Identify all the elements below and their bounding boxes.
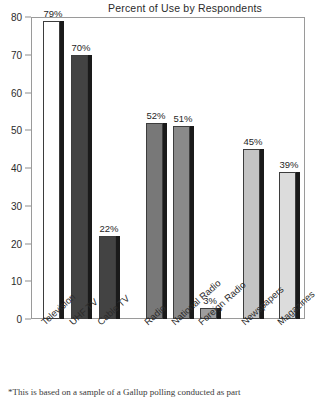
y-axis: 01020304050607080 (0, 17, 31, 319)
bar-shadow (260, 149, 264, 319)
bar-national-radio: 51% (173, 126, 193, 319)
bar-value-label: 22% (99, 223, 118, 234)
bar-shadow (190, 126, 194, 319)
bar-rect (71, 55, 88, 319)
chart-footnote: *This is based on a sample of a Gallup p… (8, 387, 313, 397)
chart-title: Percent of Use by Respondents (60, 2, 310, 14)
x-axis-labels: TelevisionUHF TVCable TVRadioNational Ra… (0, 319, 319, 381)
y-tick-label: 70 (11, 49, 22, 60)
bar-rect (243, 149, 260, 319)
bar-value-label: 52% (146, 110, 165, 121)
bar-magazines: 39% (279, 172, 299, 319)
bar-rect (173, 126, 190, 319)
bars-layer: 79%70%22%52%51%3%45%39% (31, 17, 305, 319)
bar-shadow (88, 55, 92, 319)
bar-value-label: 51% (173, 113, 192, 124)
y-tick-label: 30 (11, 200, 22, 211)
bar-value-label: 79% (43, 8, 62, 19)
y-tick-label: 80 (11, 12, 22, 23)
y-tick-label: 60 (11, 87, 22, 98)
bar-rect (146, 123, 163, 319)
bar-rect (279, 172, 296, 319)
bar-uhf-tv: 70% (71, 55, 91, 319)
bar-radio: 52% (146, 123, 166, 319)
bar-shadow (60, 21, 64, 319)
bar-value-label: 70% (71, 42, 90, 53)
y-tick-label: 50 (11, 125, 22, 136)
y-tick-label: 10 (11, 276, 22, 287)
y-tick-label: 20 (11, 238, 22, 249)
bar-rect (43, 21, 60, 319)
bar-value-label: 45% (243, 136, 262, 147)
y-tick-label: 40 (11, 163, 22, 174)
bar-television: 79% (43, 21, 63, 319)
bar-newspapers: 45% (243, 149, 263, 319)
bar-value-label: 39% (279, 159, 298, 170)
bar-shadow (163, 123, 167, 319)
